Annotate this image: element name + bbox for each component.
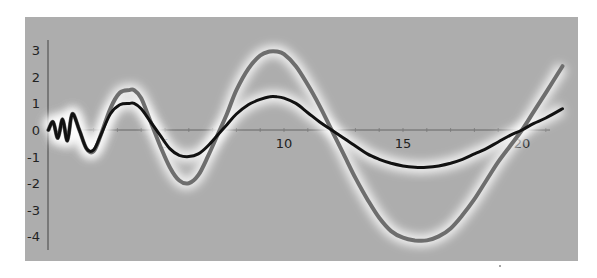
line-chart: 3210-1-2-3-4 5101520 (0, 0, 597, 278)
y-tick-labels: 3210-1-2-3-4 (27, 43, 40, 244)
y-tick-label: 3 (32, 43, 40, 58)
y-tick-label: -2 (27, 176, 40, 191)
x-tick-label: 15 (395, 136, 412, 151)
y-tick-label: -1 (27, 150, 40, 165)
x-minor-ticks (70, 128, 546, 132)
y-tick-label: 0 (32, 123, 40, 138)
y-tick-label: 1 (32, 96, 40, 111)
x-tick-label: 10 (276, 136, 293, 151)
y-tick-label: 2 (32, 70, 40, 85)
y-tick-label: -3 (27, 203, 40, 218)
y-tick-label: -4 (27, 229, 40, 244)
